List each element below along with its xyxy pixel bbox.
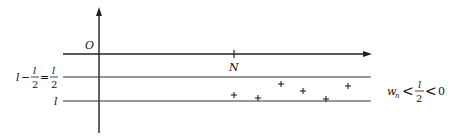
point-n-label: N bbox=[228, 61, 239, 74]
svg-text:l: l bbox=[33, 65, 36, 76]
svg-text:2: 2 bbox=[416, 93, 422, 104]
svg-text:l: l bbox=[52, 65, 55, 76]
horizontal-axis-arrow-icon bbox=[363, 51, 372, 57]
svg-text:n: n bbox=[395, 92, 400, 100]
svg-text:l: l bbox=[16, 71, 20, 84]
diagram-canvas: O N l − l 2 = l 2 l w n < l 2 < 0 bbox=[0, 0, 460, 140]
svg-text:l: l bbox=[418, 79, 421, 90]
vertical-axis-arrow-icon bbox=[96, 7, 102, 16]
l-level-label: l bbox=[54, 95, 58, 108]
charge-markers bbox=[231, 81, 351, 102]
origin-label: O bbox=[85, 39, 94, 52]
plus-icon bbox=[300, 88, 306, 94]
svg-text:2: 2 bbox=[51, 79, 57, 90]
half-level-label: l − l 2 = l 2 bbox=[16, 65, 58, 90]
plus-icon bbox=[231, 92, 237, 98]
plus-icon bbox=[278, 81, 284, 87]
svg-text:−: − bbox=[21, 71, 30, 84]
svg-text:=: = bbox=[40, 71, 49, 84]
plus-icon bbox=[255, 95, 261, 101]
svg-text:<: < bbox=[402, 83, 414, 99]
condition-label: w n < l 2 < 0 bbox=[387, 79, 445, 104]
svg-text:0: 0 bbox=[438, 85, 445, 98]
plus-icon bbox=[345, 83, 351, 89]
svg-text:<: < bbox=[425, 83, 437, 99]
svg-text:2: 2 bbox=[32, 79, 38, 90]
